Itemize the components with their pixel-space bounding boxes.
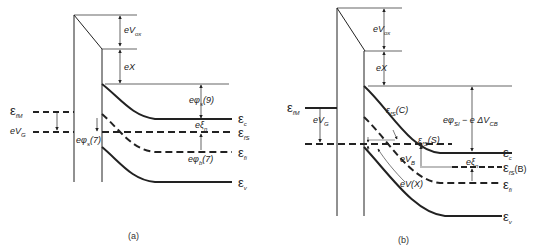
oxide-slant: [74, 15, 102, 49]
label-evx-b: eV(X): [400, 180, 423, 189]
label-evb-b: eVB: [400, 155, 415, 166]
label-efi-a: εfi: [238, 146, 247, 161]
oxide-slant: [337, 8, 365, 51]
label-ev-a: εv: [238, 176, 247, 191]
ev-band: [364, 147, 502, 216]
label-efsS-b: εfS(S): [418, 136, 440, 147]
label-ephis7-a: eφs(7): [76, 136, 101, 147]
label-efi-b: εfi: [503, 178, 512, 193]
label-echi-b: eX: [376, 64, 387, 73]
label-ev-b: εv: [503, 210, 512, 225]
label-efsC-b: εfS(C): [386, 106, 408, 117]
label-exin-a: eξn: [195, 121, 207, 132]
label-ephisi-b: eφSI − e ΔVCB: [443, 116, 498, 127]
label-evox-b: eVox: [373, 25, 390, 36]
label-evox-a: eVox: [124, 26, 141, 37]
label-efsB-b: εfS(B): [503, 161, 526, 176]
label-evg-a: eVG: [10, 127, 26, 138]
label-efm-b: εfM: [287, 101, 299, 116]
label-ephib7-a: eφb(7): [188, 155, 213, 166]
caption-b: (b): [398, 235, 409, 245]
label-echi-a: eX: [124, 63, 135, 72]
label-efs-a: εfS: [238, 126, 249, 141]
label-evg-b: eVG: [313, 116, 329, 127]
label-ec-b: εc: [503, 146, 512, 161]
label-exin-b: eξn: [466, 158, 478, 169]
label-efm-a: εfM: [10, 104, 22, 119]
label-ephis9-a: eφs(9): [189, 96, 214, 107]
caption-a: (a): [128, 231, 139, 241]
